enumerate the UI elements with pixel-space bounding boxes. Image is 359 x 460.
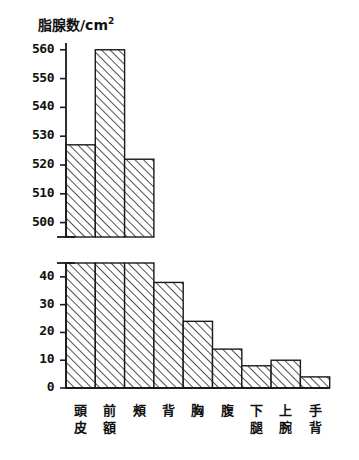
x-tick-label-line1: 手 [294,402,335,419]
y-tick-label-0: 0 [14,379,54,394]
bar-lower-頭皮 [66,263,95,388]
bar-upper-頰 [125,159,154,237]
bar-下腿 [242,366,271,388]
x-tick-label-手背: 手背 [294,402,335,436]
y-tick-label-10: 10 [14,351,54,366]
bars-upper-panel [66,50,154,237]
bar-lower-頰 [125,263,154,388]
bar-lower-前額 [95,263,124,388]
y-tick-label-560: 560 [14,41,54,56]
y-axis-title-text: 脂腺数/cm [38,17,108,33]
bar-背 [154,282,183,388]
y-tick-label-520: 520 [14,156,54,171]
x-tick-label-line2: 額 [89,419,130,436]
bar-upper-前額 [95,50,124,237]
x-tick-label-line2: 背 [294,419,335,436]
y-tick-label-500: 500 [14,214,54,229]
bars-lower-panel [66,263,330,388]
y-tick-label-40: 40 [14,268,54,283]
y-tick-label-530: 530 [14,127,54,142]
y-tick-label-550: 550 [14,70,54,85]
bar-upper-頭皮 [66,145,95,237]
chart-figure: 脂腺数/cm2 500510520530540550560 010203040 … [0,0,359,460]
bar-胸 [183,321,212,388]
y-tick-label-540: 540 [14,98,54,113]
bar-上腕 [271,360,300,388]
y-axis-title-exponent: 2 [108,16,114,26]
bar-手背 [300,377,329,388]
y-tick-label-510: 510 [14,185,54,200]
y-tick-label-30: 30 [14,296,54,311]
y-tick-label-20: 20 [14,323,54,338]
bar-腹 [213,349,242,388]
y-axis-title: 脂腺数/cm2 [38,14,114,34]
